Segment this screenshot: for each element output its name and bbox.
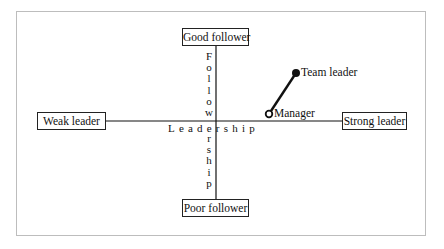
manager-marker	[266, 111, 273, 118]
poor-follower-box: Poor follower	[182, 199, 249, 217]
manager-label: Manager	[274, 107, 315, 119]
leadership-axis-label: Leadership	[168, 122, 259, 134]
followership-axis-label-upper: Follow	[203, 51, 215, 118]
team-leader-label: Team leader	[301, 66, 357, 78]
followership-axis-label-lower: rship	[203, 133, 215, 189]
weak-leader-box: Weak leader	[37, 112, 106, 130]
team-leader-marker	[292, 69, 300, 77]
strong-leader-box: Strong leader	[342, 112, 407, 130]
good-follower-box: Good follower	[182, 28, 249, 46]
